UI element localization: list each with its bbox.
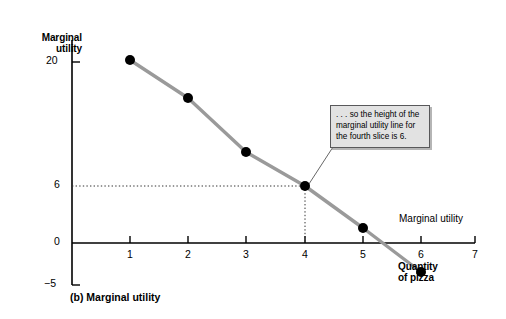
x-tick-label-3: 3: [243, 249, 249, 261]
data-point-2: [183, 93, 193, 103]
y-axis-title: Marginal utility: [20, 32, 82, 54]
y-tick-label-20: 20: [46, 55, 58, 67]
x-tick-label-1: 1: [127, 249, 133, 261]
y-tick-label-6: 6: [54, 179, 60, 191]
data-point-1: [125, 55, 135, 65]
data-point-3: [241, 147, 251, 157]
series-label-marginal-utility: Marginal utility: [399, 213, 463, 224]
x-tick-label-5: 5: [360, 249, 366, 261]
marginal-utility-line: [130, 60, 421, 272]
callout-leader-line: [307, 147, 333, 187]
x-tick-label-6: 6: [418, 249, 424, 261]
x-tick-label-2: 2: [185, 249, 191, 261]
figure-caption: (b) Marginal utility: [70, 292, 160, 304]
marginal-utility-figure: Marginal utility 20 6 0 −5 1 2 3 4 5 6 7…: [0, 0, 506, 319]
data-point-5: [358, 223, 368, 233]
x-axis-title: Quantity of pizza: [398, 261, 470, 283]
x-tick-label-4: 4: [302, 249, 308, 261]
y-tick-label-0: 0: [54, 236, 60, 248]
data-point-4: [300, 181, 310, 191]
x-tick-label-7: 7: [472, 249, 478, 261]
callout-annotation: . . . so the height of the marginal util…: [330, 105, 430, 148]
y-tick-label-minus5: −5: [44, 278, 56, 290]
